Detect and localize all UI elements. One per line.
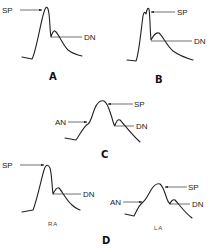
sp-label-b: SP [177, 8, 188, 17]
dn-label-c: DN [136, 122, 148, 131]
waveform-diagram: SP DN A SP DN B SP AN DN C SP DN RA SP [0, 0, 212, 250]
waveform-c [65, 101, 140, 142]
panel-label-d: D [102, 235, 110, 246]
panel-a: SP DN A [2, 6, 96, 82]
waveform-ra [22, 165, 80, 212]
an-label-la: AN [110, 198, 121, 207]
dn-label-la: DN [192, 200, 204, 209]
panel-b: SP DN B [127, 8, 206, 85]
dn-label-ra: DN [83, 190, 95, 199]
sp-label-a: SP [2, 6, 13, 15]
panel-label-a: A [49, 71, 57, 82]
sp-label-c: SP [134, 100, 145, 109]
panel-label-c: C [101, 149, 108, 160]
panel-label-b: B [155, 74, 163, 85]
sp-label-la: SP [188, 183, 199, 192]
sublabel-ra: RA [48, 221, 58, 227]
dn-label-a: DN [84, 33, 96, 42]
diagram-svg: SP DN A SP DN B SP AN DN C SP DN RA SP [0, 0, 212, 250]
panel-d-ra: SP DN RA [2, 161, 95, 227]
sp-label-ra: SP [2, 161, 13, 170]
an-label-c: AN [55, 118, 66, 127]
waveform-la [125, 184, 192, 218]
panel-d-la: SP AN DN LA [110, 183, 204, 231]
panel-c: SP AN DN C [55, 100, 148, 160]
waveform-a [22, 7, 82, 59]
dn-label-b: DN [194, 37, 206, 46]
sublabel-la: LA [154, 225, 163, 231]
